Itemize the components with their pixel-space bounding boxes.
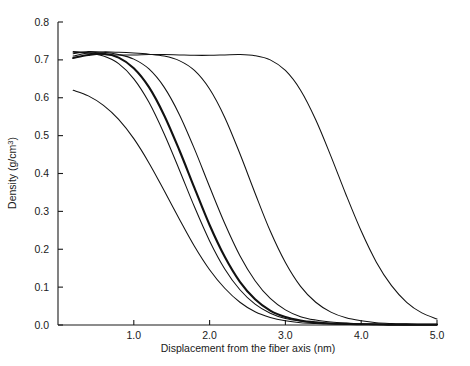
density-curve: [73, 90, 437, 324]
x-tick-label: 4.0: [354, 329, 369, 341]
y-tick-label: 0.0: [34, 319, 49, 331]
x-tick-label: 2.0: [202, 329, 217, 341]
y-tick-label: 0.7: [34, 53, 49, 65]
x-tick-label: 5.0: [430, 329, 445, 341]
density-curve: [73, 52, 437, 319]
y-axis-title-main: Density (g/cm: [6, 144, 18, 208]
density-curve: [73, 54, 437, 325]
density-curve: [73, 52, 437, 324]
density-curves: [73, 51, 437, 324]
density-profile-figure: 0.00.10.20.30.40.50.60.70.8 1.02.03.04.0…: [0, 0, 470, 366]
x-axis-title: Displacement from the fiber axis (nm): [161, 342, 335, 354]
y-tick-label: 0.6: [34, 91, 49, 103]
y-axis-tick-labels: 0.00.10.20.30.40.50.60.70.8: [34, 16, 49, 331]
y-tick-label: 0.1: [34, 281, 49, 293]
y-tick-label: 0.5: [34, 129, 49, 141]
x-tick-label: 1.0: [126, 329, 141, 341]
y-tick-label: 0.4: [34, 167, 49, 179]
y-axis-ticks: [58, 22, 63, 325]
y-tick-label: 0.8: [34, 16, 49, 28]
x-tick-label: 3.0: [278, 329, 293, 341]
y-tick-label: 0.3: [34, 205, 49, 217]
y-axis-title-close: ): [6, 137, 18, 141]
svg-text:Density (g/cm3): Density (g/cm3): [6, 137, 19, 209]
y-axis-title: Density (g/cm3): [6, 137, 19, 209]
plot-canvas: 0.00.10.20.30.40.50.60.70.8 1.02.03.04.0…: [0, 0, 470, 366]
density-curve: [73, 52, 437, 324]
y-tick-label: 0.2: [34, 243, 49, 255]
density-curve: [73, 51, 437, 324]
x-axis-tick-labels: 1.02.03.04.05.0: [126, 329, 444, 341]
